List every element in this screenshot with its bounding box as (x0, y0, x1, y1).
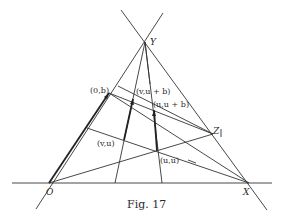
label-z: Z (212, 126, 220, 136)
label-o: O (46, 187, 54, 197)
label-y: Y (150, 37, 157, 47)
annotation-0b: (0,b) (90, 86, 109, 95)
segment-o-0b-thick (49, 93, 109, 183)
label-x: X (242, 187, 250, 197)
annotation-vub: (v,u + b) (136, 87, 170, 96)
vector-uu-to-uub (154, 110, 157, 151)
projective-geometry-figure: O X Y Z (0,b) (v,u + b) (u,u + b) (v,u) … (0, 0, 283, 220)
annotation-vu: (v,u) (97, 139, 115, 148)
line-o-to-z (49, 134, 213, 183)
line-oy (36, 13, 163, 209)
annotation-uub: (u,u + b) (153, 100, 189, 109)
figure-caption: Fig. 17 (127, 198, 166, 211)
annotation-uu: (u,u) (160, 156, 179, 165)
